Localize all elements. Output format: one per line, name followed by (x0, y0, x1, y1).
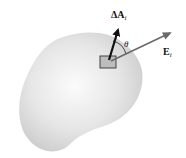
normal-vector-label: ΔAi (111, 9, 127, 22)
area-element-patch (100, 56, 116, 68)
gauss-flux-diagram: ΔAi θ Ei (0, 0, 186, 158)
field-vector-label: Ei (163, 46, 172, 59)
closed-surface (19, 32, 142, 151)
diagram-svg: ΔAi θ Ei (0, 0, 186, 158)
angle-theta-label: θ (124, 39, 129, 49)
